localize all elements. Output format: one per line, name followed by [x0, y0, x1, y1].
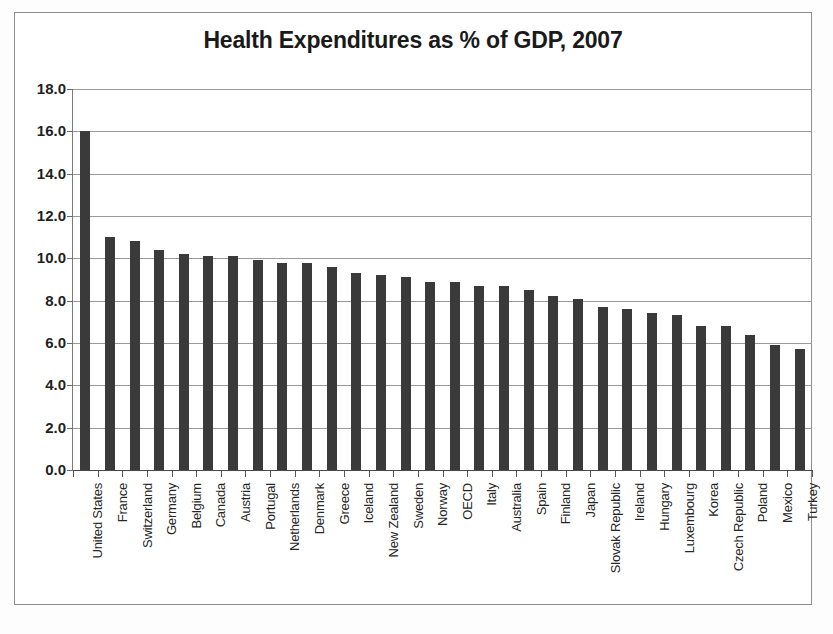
- bar: [647, 313, 657, 470]
- gridline: [73, 89, 812, 90]
- x-axis-tick: [640, 471, 641, 477]
- bar: [770, 345, 780, 470]
- x-axis-category-label: Slovak Republic: [608, 483, 623, 573]
- x-axis-tick: [344, 471, 345, 477]
- bar: [401, 277, 411, 470]
- y-axis-tick: [67, 343, 73, 344]
- y-axis-tick-label: 14.0: [14, 165, 66, 182]
- bar: [795, 349, 805, 470]
- x-axis-category-label: Norway: [435, 483, 450, 526]
- y-axis-tick: [67, 301, 73, 302]
- chart-figure: Health Expenditures as % of GDP, 2007 0.…: [0, 0, 833, 634]
- x-axis-tick: [172, 471, 173, 477]
- y-axis-tick: [67, 385, 73, 386]
- x-axis-category-label: Turkey: [805, 483, 820, 521]
- x-axis-tick: [319, 471, 320, 477]
- x-axis-tick: [812, 471, 813, 477]
- x-axis-tick: [295, 471, 296, 477]
- x-axis-category-label: Czech Republic: [731, 483, 746, 571]
- x-axis-category-label: Greece: [337, 483, 352, 524]
- x-axis-tick: [689, 471, 690, 477]
- bar: [228, 256, 238, 470]
- bar: [203, 256, 213, 470]
- x-axis-category-label: Iceland: [361, 483, 376, 524]
- bar: [179, 254, 189, 470]
- y-axis-tick-label: 6.0: [14, 334, 66, 351]
- bar: [154, 250, 164, 470]
- y-axis-tick-label: 0.0: [14, 461, 66, 478]
- y-axis-tick-label: 10.0: [14, 249, 66, 266]
- y-axis-tick: [67, 174, 73, 175]
- x-axis-category-label: Japan: [583, 483, 598, 517]
- x-axis-category-label: Korea: [706, 483, 721, 517]
- y-axis-tick-label: 4.0: [14, 376, 66, 393]
- x-axis-tick: [221, 471, 222, 477]
- bar: [745, 335, 755, 470]
- bar: [327, 267, 337, 470]
- x-axis-category-label: Canada: [213, 483, 228, 527]
- x-axis-tick: [245, 471, 246, 477]
- x-axis-tick: [369, 471, 370, 477]
- bar: [672, 315, 682, 470]
- bar: [499, 286, 509, 470]
- x-axis-tick: [98, 471, 99, 477]
- x-axis-category-label: Denmark: [312, 483, 327, 534]
- y-axis-labels: 0.02.04.06.08.010.012.014.016.018.0: [8, 89, 66, 470]
- bar: [573, 299, 583, 470]
- bar: [450, 282, 460, 470]
- y-axis-tick-label: 2.0: [14, 419, 66, 436]
- x-axis-tick: [590, 471, 591, 477]
- bar: [277, 263, 287, 470]
- x-axis-tick: [763, 471, 764, 477]
- x-axis-category-label: Belgium: [189, 483, 204, 529]
- x-axis-tick: [147, 471, 148, 477]
- y-axis-tick: [67, 89, 73, 90]
- bar: [474, 286, 484, 470]
- gridline: [73, 131, 812, 132]
- x-axis-category-label: United States: [90, 483, 105, 558]
- bar: [696, 326, 706, 470]
- gridline: [73, 216, 812, 217]
- y-axis-tick-label: 8.0: [14, 292, 66, 309]
- bar: [130, 241, 140, 470]
- x-axis-category-label: Portugal: [263, 483, 278, 530]
- bar: [524, 290, 534, 470]
- x-axis-category-label: Poland: [755, 483, 770, 522]
- bar: [376, 275, 386, 470]
- x-axis-tick: [664, 471, 665, 477]
- x-axis-tick: [418, 471, 419, 477]
- x-axis-category-label: Austria: [238, 483, 253, 522]
- bar: [105, 237, 115, 470]
- x-axis-category-label: Sweden: [411, 483, 426, 529]
- x-axis-category-label: France: [115, 483, 130, 522]
- bar: [302, 263, 312, 470]
- y-axis-tick-label: 12.0: [14, 207, 66, 224]
- x-axis-category-label: Germany: [164, 483, 179, 535]
- plot-area: [73, 89, 812, 470]
- bar: [721, 326, 731, 470]
- x-axis-category-label: New Zealand: [386, 483, 401, 557]
- x-axis-category-label: Finland: [558, 483, 573, 524]
- x-axis-category-label: OECD: [460, 483, 475, 520]
- x-axis-tick: [615, 471, 616, 477]
- x-axis-tick: [566, 471, 567, 477]
- x-axis-tick: [713, 471, 714, 477]
- x-axis-category-label: Australia: [509, 483, 524, 532]
- x-axis-tick: [467, 471, 468, 477]
- y-axis-tick-label: 18.0: [14, 80, 66, 97]
- x-axis-tick: [492, 471, 493, 477]
- x-axis-tick: [443, 471, 444, 477]
- bar: [351, 273, 361, 470]
- y-axis-tick: [67, 131, 73, 132]
- x-axis-category-label: Switzerland: [140, 483, 155, 548]
- x-axis-tick: [738, 471, 739, 477]
- x-axis-tick: [122, 471, 123, 477]
- x-axis-tick: [73, 471, 74, 477]
- bar: [622, 309, 632, 470]
- x-axis-tick: [541, 471, 542, 477]
- y-axis-tick: [67, 428, 73, 429]
- bar: [598, 307, 608, 470]
- x-axis-category-label: Ireland: [632, 483, 647, 521]
- x-axis-category-label: Luxembourg: [682, 483, 697, 553]
- gridline: [73, 174, 812, 175]
